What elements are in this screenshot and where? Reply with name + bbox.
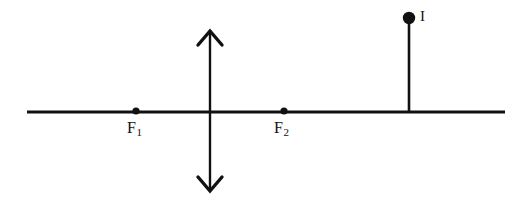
diagram-canvas: F1 F2 I (0, 0, 524, 205)
focal-point-1-letter: F (127, 119, 136, 136)
object-label: I (420, 9, 425, 24)
focal-point-2-subscript: 2 (283, 126, 289, 138)
focal-point-1-label: F1 (127, 120, 142, 138)
ray-diagram-svg (0, 0, 524, 205)
focal-point-2-dot (280, 107, 287, 114)
focal-point-1-dot (132, 107, 139, 114)
focal-point-2-letter: F (274, 119, 283, 136)
focal-point-2-label: F2 (274, 120, 289, 138)
object-tip-dot (403, 12, 415, 24)
focal-point-1-subscript: 1 (136, 126, 142, 138)
